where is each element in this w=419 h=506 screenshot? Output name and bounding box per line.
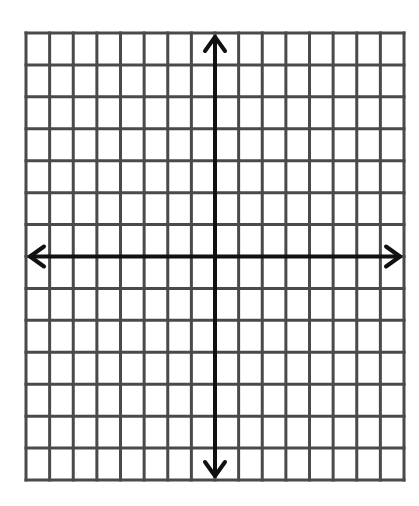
coordinate-grid: [0, 0, 419, 506]
axes: [30, 37, 400, 476]
